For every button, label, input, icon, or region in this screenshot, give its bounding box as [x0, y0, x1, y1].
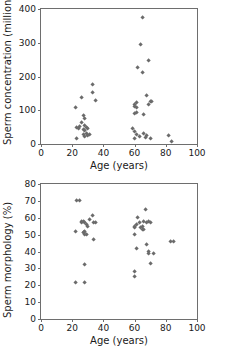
x-axis-tick-label: 80 [160, 324, 171, 333]
x-axis-tick-label: 40 [98, 149, 109, 158]
data-point [79, 95, 84, 100]
y-axis-tick [38, 77, 41, 78]
x-axis-tick-label: 60 [129, 324, 140, 333]
y-axis-tick-label: 300 [19, 38, 36, 47]
x-axis-title-morphology: Age (years) [40, 335, 198, 346]
x-axis-tick [166, 319, 167, 322]
x-axis-tick-label: 0 [38, 149, 44, 158]
data-point [171, 239, 176, 244]
y-axis-tick [38, 302, 41, 303]
y-axis-tick [38, 43, 41, 44]
data-point [135, 65, 140, 70]
data-point [170, 139, 175, 144]
x-axis-tick [41, 319, 42, 322]
y-axis-tick-label: 60 [25, 213, 36, 222]
x-axis-tick-label: 80 [160, 149, 171, 158]
data-point [90, 214, 95, 219]
x-axis-title-concentration: Age (years) [40, 160, 198, 171]
x-axis-tick [135, 319, 136, 322]
data-point [140, 71, 145, 76]
y-axis-tick-label: 70 [25, 196, 36, 205]
data-points-concentration [41, 9, 197, 144]
y-axis-tick-label: 40 [25, 247, 36, 256]
page-edge-bleed-top [221, 30, 235, 120]
x-axis-tick [197, 144, 198, 147]
y-axis-tick-label: 30 [25, 264, 36, 273]
y-axis-tick-label: 100 [19, 106, 36, 115]
y-axis-tick [38, 285, 41, 286]
x-axis-tick-label: 20 [66, 324, 77, 333]
y-axis-tick-label: 400 [19, 5, 36, 14]
y-axis-tick [38, 9, 41, 10]
x-axis-tick [103, 144, 104, 147]
y-axis-tick-label: 200 [19, 72, 36, 81]
data-point [132, 275, 137, 280]
data-point [132, 232, 137, 237]
y-axis-tick-label: 20 [25, 281, 36, 290]
x-axis-tick [72, 144, 73, 147]
data-point [167, 134, 172, 139]
y-axis-tick [38, 235, 41, 236]
data-point [73, 280, 78, 285]
data-point [148, 221, 153, 226]
x-axis-tick [41, 144, 42, 147]
data-point [90, 91, 95, 96]
data-point [86, 126, 91, 131]
y-axis-tick [38, 218, 41, 219]
x-axis-tick-label: 20 [66, 149, 77, 158]
data-point [90, 82, 95, 87]
data-point [134, 246, 139, 251]
plot-area-morphology: 01020304050607080 020406080100 [40, 183, 198, 320]
data-point [151, 251, 156, 256]
y-axis-title-morphology: Sperm morphology (%) [2, 202, 13, 318]
data-point [140, 15, 145, 20]
data-point [73, 229, 78, 234]
x-axis-tick [197, 319, 198, 322]
data-point [142, 227, 147, 232]
y-axis-tick [38, 252, 41, 253]
sperm-parameters-figure: Sperm concentration (million/ml) 0100200… [0, 0, 235, 350]
x-axis-tick-label: 100 [188, 324, 205, 333]
x-axis-tick [72, 319, 73, 322]
data-point [148, 261, 153, 266]
data-point [145, 242, 150, 247]
data-point [82, 263, 87, 268]
data-point [82, 117, 87, 122]
plot-area-concentration: 0100200300400 020406080100 [40, 8, 198, 145]
data-point [75, 136, 80, 141]
y-axis-tick-label: 0 [30, 140, 36, 149]
y-axis-tick [38, 201, 41, 202]
data-point [92, 237, 97, 242]
chart-panel-sperm-concentration: Sperm concentration (million/ml) 0100200… [0, 0, 235, 175]
chart-panel-sperm-morphology: Sperm morphology (%) 01020304050607080 0… [0, 175, 235, 350]
x-axis-tick-label: 40 [98, 324, 109, 333]
y-axis-tick [38, 268, 41, 269]
data-point [149, 99, 154, 104]
data-point [132, 269, 137, 274]
y-axis-tick-label: 50 [25, 230, 36, 239]
data-point [146, 58, 151, 63]
data-point [143, 207, 148, 212]
data-point [73, 105, 78, 110]
x-axis-tick-label: 100 [188, 149, 205, 158]
data-point [86, 224, 91, 229]
data-point [145, 93, 150, 98]
y-axis-tick [38, 184, 41, 185]
data-point [134, 110, 139, 115]
y-axis-tick-label: 0 [30, 315, 36, 324]
data-points-morphology [41, 184, 197, 319]
data-point [134, 100, 139, 105]
y-axis-tick-label: 10 [25, 298, 36, 307]
y-axis-tick-label: 80 [25, 180, 36, 189]
data-point [142, 113, 147, 118]
x-axis-tick-label: 60 [129, 149, 140, 158]
data-point [137, 134, 142, 139]
x-axis-tick [103, 319, 104, 322]
page-edge-bleed-bottom [221, 230, 235, 300]
data-point [93, 99, 98, 104]
data-point [82, 280, 87, 285]
data-point [78, 199, 83, 204]
x-axis-tick [166, 144, 167, 147]
data-point [148, 136, 153, 141]
data-point [87, 217, 92, 222]
